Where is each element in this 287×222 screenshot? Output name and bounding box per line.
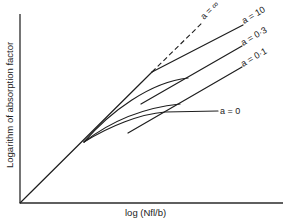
curve-a-0 [84, 111, 218, 142]
asymptote-a-0-1 [128, 67, 242, 133]
y-axis-label: Logarithm of absorption factor [4, 42, 15, 168]
x-axis-label: log (Nfl/b) [125, 207, 166, 218]
label-a-0-1: a = 0·1 [239, 46, 268, 69]
line-a-10 [152, 25, 243, 72]
chart: a = ∞ a = 10 a = 0·3 a = 0·1 a = 0 log (… [0, 0, 287, 222]
label-a-infinity: a = ∞ [198, 0, 220, 21]
label-a-0: a = 0 [220, 106, 240, 116]
label-a-0-3: a = 0·3 [239, 25, 268, 48]
asymptote-a-0-3 [141, 46, 242, 104]
label-a-10: a = 10 [240, 4, 267, 25]
line-a-infinity [20, 72, 152, 203]
line-a-infinity-dashed [152, 22, 203, 72]
curve-a-0-1 [84, 104, 180, 142]
